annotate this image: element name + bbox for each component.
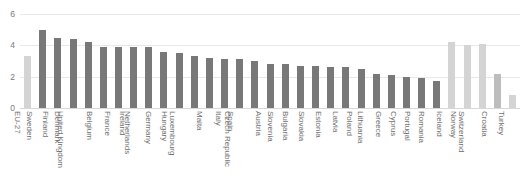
- x-axis-label-finland: Finland: [37, 112, 45, 138]
- bar-latvia[interactable]: [342, 67, 349, 108]
- x-axis-label-portugal: Portugal: [399, 112, 407, 142]
- x-axis-label-slovenia: Slovenia: [262, 112, 270, 143]
- x-axis-label-eu-27: EU-27: [8, 112, 16, 135]
- x-axis-label-italy: Italy: [209, 112, 217, 127]
- bar-belgium[interactable]: [100, 47, 107, 108]
- bar-spain[interactable]: [236, 59, 243, 108]
- bar-france[interactable]: [115, 47, 122, 108]
- bar-slot: [232, 8, 247, 108]
- bar-slot: [65, 8, 80, 108]
- bar-bulgaria[interactable]: [297, 66, 304, 108]
- x-axis-label-turkey: Turkey: [493, 112, 501, 136]
- x-axis-label-greece: Greece: [370, 112, 378, 138]
- bar-slot: [141, 8, 156, 108]
- bar-slot: [293, 8, 308, 108]
- bar-poland[interactable]: [358, 69, 365, 108]
- bar-czech-republic[interactable]: [251, 61, 258, 108]
- bar-sweden[interactable]: [39, 30, 46, 108]
- bar-malta[interactable]: [206, 58, 213, 108]
- bar-slot: [50, 8, 65, 108]
- bar-finland[interactable]: [54, 38, 61, 109]
- bar-greece[interactable]: [388, 75, 395, 108]
- x-axis-label-lithuania: Lithuania: [352, 112, 360, 144]
- x-axis-label-austria: Austria: [250, 112, 258, 137]
- bar-chart: 0246 EU-27SwedenFinlandDenmarkUnited Kin…: [0, 0, 524, 176]
- bar-switzerland[interactable]: [479, 44, 486, 108]
- bar-slot: [217, 8, 232, 108]
- y-tick-label: 6: [10, 10, 15, 19]
- bar-germany[interactable]: [160, 52, 167, 108]
- bar-iceland[interactable]: [448, 42, 455, 108]
- x-axis-label-switzerland: Switzerland: [454, 112, 462, 153]
- bar-turkey[interactable]: [509, 95, 516, 108]
- bar-portugal[interactable]: [418, 78, 425, 108]
- bar-slot: [460, 8, 475, 108]
- bar-slot: [429, 8, 444, 108]
- bar-italy[interactable]: [221, 59, 228, 108]
- bar-slot: [247, 8, 262, 108]
- bar-netherlands[interactable]: [145, 47, 152, 108]
- x-label-slot: Turkey: [505, 110, 520, 176]
- bar-romania[interactable]: [433, 81, 440, 108]
- bar-slot: [308, 8, 323, 108]
- x-axis-label-latvia: Latvia: [327, 112, 335, 133]
- bar-norway[interactable]: [464, 45, 471, 108]
- bar-slovakia[interactable]: [312, 66, 319, 108]
- x-axis-label-sweden: Sweden: [20, 112, 28, 141]
- x-axis-label-germany: Germany: [140, 112, 148, 145]
- x-axis-label-slovakia: Slovakia: [292, 112, 300, 142]
- bar-slot: [187, 8, 202, 108]
- plot-area: 0246: [20, 8, 520, 108]
- bar-slot: [263, 8, 278, 108]
- bar-slot: [475, 8, 490, 108]
- bar-slot: [338, 8, 353, 108]
- x-axis-label-romania: Romania: [413, 112, 421, 144]
- x-label-slot: Spain: [232, 110, 247, 176]
- x-axis-label-netherlands: Netherlands: [119, 112, 127, 155]
- gridline-0: [20, 108, 520, 109]
- bar-slot: [323, 8, 338, 108]
- bar-luxembourg[interactable]: [191, 56, 198, 108]
- bar-slot: [96, 8, 111, 108]
- x-axis-label-estonia: Estonia: [309, 112, 317, 139]
- bar-series: [20, 8, 520, 108]
- bar-slovenia[interactable]: [282, 64, 289, 108]
- x-axis-label-iceland: Iceland: [431, 112, 439, 138]
- bar-croatia[interactable]: [494, 74, 501, 108]
- bar-slot: [353, 8, 368, 108]
- bar-slot: [505, 8, 520, 108]
- x-axis-labels: EU-27SwedenFinlandDenmarkUnited KingdomB…: [20, 110, 520, 176]
- x-axis-label-poland: Poland: [341, 112, 349, 137]
- x-axis-label-bulgaria: Bulgaria: [278, 112, 286, 141]
- x-axis-label-czech-republic: Czech Republic: [219, 112, 227, 168]
- bar-slot: [81, 8, 96, 108]
- bar-slot: [384, 8, 399, 108]
- bar-slot: [20, 8, 35, 108]
- bar-lithuania[interactable]: [373, 74, 380, 108]
- x-axis-label-croatia: Croatia: [477, 112, 485, 138]
- bar-slot: [278, 8, 293, 108]
- x-axis-label-cyprus: Cyprus: [386, 112, 394, 137]
- x-axis-label-france: France: [98, 112, 106, 137]
- bar-cyprus[interactable]: [403, 77, 410, 108]
- bar-austria[interactable]: [267, 64, 274, 108]
- bar-united-kingdom[interactable]: [85, 42, 92, 108]
- bar-eu-27[interactable]: [24, 56, 31, 108]
- bar-hungary[interactable]: [176, 53, 183, 108]
- x-label-slot: Denmark: [65, 110, 80, 176]
- bar-slot: [172, 8, 187, 108]
- bar-slot: [156, 8, 171, 108]
- bar-denmark[interactable]: [70, 39, 77, 108]
- bar-slot: [202, 8, 217, 108]
- bar-slot: [444, 8, 459, 108]
- y-tick-label: 4: [10, 41, 15, 50]
- bar-estonia[interactable]: [327, 67, 334, 108]
- bar-slot: [111, 8, 126, 108]
- bar-slot: [490, 8, 505, 108]
- bar-ireland[interactable]: [130, 47, 137, 108]
- x-axis-label-luxembourg: Luxembourg: [164, 112, 172, 156]
- y-tick-label: 2: [10, 72, 15, 81]
- bar-slot: [414, 8, 429, 108]
- x-axis-label-malta: Malta: [192, 112, 200, 132]
- x-axis-label-united-kingdom: United Kingdom: [52, 112, 60, 169]
